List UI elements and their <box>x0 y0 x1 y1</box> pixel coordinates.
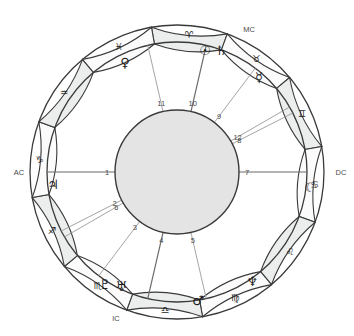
sign-glyph-capricorn[interactable]: ♑ <box>35 154 44 165</box>
sign-glyph-aries[interactable]: ♈ <box>185 29 194 40</box>
natal-chart-container: ♈♉♊♋♌♍♎♏♐♑♒♓ 123456789101112 ☉♄☿♀♃☾♇♅♂♆ … <box>0 0 354 336</box>
angle-label-ic: IC <box>112 314 120 323</box>
house-number-3: 3 <box>133 223 137 232</box>
planet-glyph-jupiter[interactable]: ♃ <box>47 177 59 192</box>
angle-label-dc: DC <box>336 168 347 177</box>
house-number-4: 4 <box>159 236 163 245</box>
chart-hub-circle <box>115 110 239 234</box>
angle-label-mc: MC <box>243 25 255 34</box>
house-number-10: 10 <box>189 99 197 108</box>
planet-glyph-mercury[interactable]: ☿ <box>255 70 263 85</box>
sign-glyph-leo[interactable]: ♌ <box>286 246 295 257</box>
house-number-11: 11 <box>157 99 165 108</box>
planet-glyph-venus[interactable]: ♀ <box>120 55 130 70</box>
house-number-5: 5 <box>191 236 195 245</box>
planet-glyph-moon[interactable]: ☾ <box>304 180 316 195</box>
house-number-9: 9 <box>217 112 221 121</box>
angle-label-ac: AC <box>14 168 25 177</box>
planet-glyph-mars[interactable]: ♂ <box>192 293 204 308</box>
sign-glyph-virgo[interactable]: ♍ <box>231 292 240 303</box>
natal-wheel-svg: ♈♉♊♋♌♍♎♏♐♑♒♓ 123456789101112 ☉♄☿♀♃☾♇♅♂♆ … <box>0 0 354 336</box>
sign-glyph-aquarius[interactable]: ♒ <box>60 87 69 98</box>
planet-glyph-pluto[interactable]: ♇ <box>99 277 111 292</box>
planet-glyph-uranus[interactable]: ♅ <box>115 279 127 294</box>
house-number-12: 12 <box>233 133 241 142</box>
sign-glyph-pisces[interactable]: ♓ <box>114 41 123 52</box>
sign-glyph-libra[interactable]: ♎ <box>161 304 170 315</box>
house-number-7: 7 <box>245 168 249 177</box>
sign-glyph-sagittarius[interactable]: ♐ <box>48 225 57 236</box>
house-number-6: 6 <box>114 203 118 212</box>
house-number-1: 1 <box>105 168 109 177</box>
sign-glyph-taurus[interactable]: ♉ <box>252 53 261 64</box>
planet-glyph-sun[interactable]: ☉ <box>199 43 211 58</box>
planet-glyph-saturn[interactable]: ♄ <box>215 43 227 58</box>
planet-glyph-neptune[interactable]: ♆ <box>246 274 258 289</box>
sign-glyph-gemini[interactable]: ♊ <box>298 108 307 119</box>
